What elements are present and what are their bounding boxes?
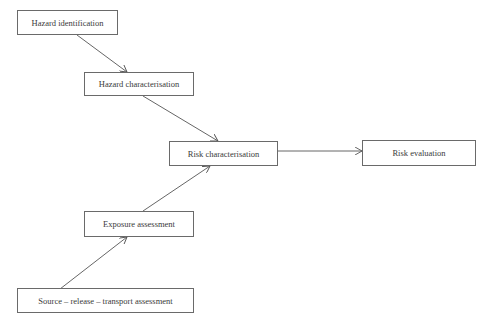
node-label: Risk evaluation <box>392 148 445 158</box>
flowchart-canvas: Hazard identification Hazard characteris… <box>0 0 483 328</box>
node-risk-characterisation: Risk characterisation <box>169 141 278 166</box>
arrow-hazard-characterisation-to-risk-characterisation <box>143 96 218 141</box>
node-risk-evaluation: Risk evaluation <box>362 140 476 166</box>
node-exposure-assessment: Exposure assessment <box>84 211 194 237</box>
arrow-exposure-assessment-to-risk-characterisation <box>143 166 210 211</box>
node-label: Hazard characterisation <box>99 79 179 89</box>
node-label: Risk characterisation <box>188 149 260 159</box>
node-label: Exposure assessment <box>103 219 175 229</box>
node-label: Hazard identification <box>32 18 104 28</box>
node-source-release-transport-assessment: Source – release – transport assessment <box>17 288 194 313</box>
arrow-hazard-identification-to-hazard-characterisation <box>77 35 127 72</box>
node-label: Source – release – transport assessment <box>38 296 172 306</box>
node-hazard-characterisation: Hazard characterisation <box>84 72 194 96</box>
arrow-source-release-transport-to-exposure-assessment <box>60 237 127 289</box>
node-hazard-identification: Hazard identification <box>17 10 118 35</box>
